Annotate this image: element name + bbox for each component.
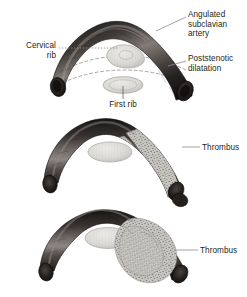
label-angulated-line-3: artery xyxy=(188,29,227,39)
label-poststenotic-line-1: Poststenotic xyxy=(188,54,233,64)
label-cervical-line-2: rib xyxy=(2,51,56,61)
label-angulated-line-1: Angulated xyxy=(188,10,227,20)
first-rib-middle xyxy=(88,142,132,162)
label-first-rib-text: First rib xyxy=(92,100,154,110)
label-poststenotic-dilatation: Poststenotic dilatation xyxy=(188,54,233,73)
illustration-stage: Angulated subclavian artery Poststenotic… xyxy=(0,0,247,297)
label-thrombus-bottom: Thrombus xyxy=(200,246,237,256)
label-cervical-rib: Cervical rib xyxy=(2,41,56,60)
label-thrombus-bottom-text: Thrombus xyxy=(200,246,237,256)
label-first-rib: First rib xyxy=(92,100,154,110)
label-cervical-line-1: Cervical xyxy=(2,41,56,51)
label-angulated-line-2: subclavian xyxy=(188,20,227,30)
label-thrombus-middle: Thrombus xyxy=(202,143,239,153)
label-angulated-subclavian-artery: Angulated subclavian artery xyxy=(188,10,227,39)
label-thrombus-middle-text: Thrombus xyxy=(202,143,239,153)
label-poststenotic-line-2: dilatation xyxy=(188,64,233,74)
